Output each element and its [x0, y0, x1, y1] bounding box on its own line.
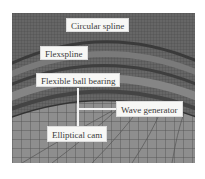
- label-circular-spline: Circular spline: [66, 18, 129, 32]
- connector-vertical: [77, 88, 79, 126]
- label-flexible-ball-bearing: Flexible ball bearing: [36, 73, 120, 87]
- label-flexspline: Flexspline: [40, 46, 88, 60]
- fem-mesh-figure: Circular spline Flexspline Flexible ball…: [12, 13, 195, 163]
- connector-horizontal: [79, 108, 117, 110]
- label-wave-generator: Wave generator: [116, 101, 183, 117]
- label-elliptical-cam: Elliptical cam: [47, 126, 107, 142]
